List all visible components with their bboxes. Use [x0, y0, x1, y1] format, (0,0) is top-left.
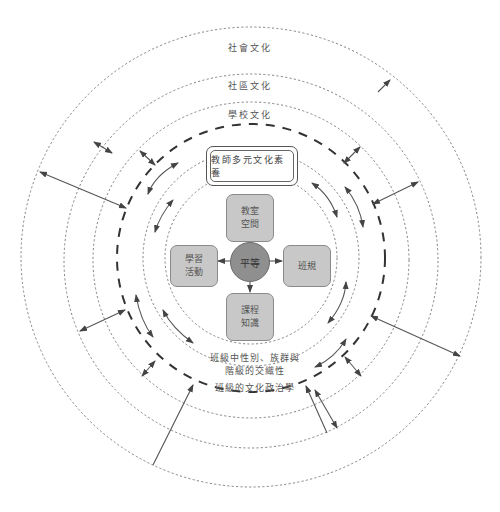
double-arrow-icon [153, 385, 193, 465]
double-arrow-icon [94, 142, 112, 153]
node-learning-activities-line1: 學習 [185, 253, 203, 266]
node-learning-activities: 學習 活動 [170, 245, 218, 287]
label-society-culture: 社會文化 [200, 41, 300, 54]
curved-arrow-icon [312, 183, 337, 217]
label-intersectionality-line1: 班級中性別、族群與 [180, 351, 330, 364]
core-equality: 平等 [230, 242, 270, 282]
label-school-culture: 學校文化 [200, 108, 300, 121]
node-curriculum-knowledge: 課程 知識 [226, 293, 274, 341]
curved-arrow-icon [148, 163, 178, 194]
core-equality-label: 平等 [240, 255, 260, 270]
double-arrow-icon [378, 80, 390, 92]
node-curriculum-knowledge-line1: 課程 [241, 304, 259, 317]
double-arrow-icon [345, 357, 361, 376]
node-learning-activities-line2: 活動 [185, 266, 203, 279]
node-classroom-space: 教室 空間 [226, 194, 274, 242]
teacher-literacy-box: 教師多元文化素養 [206, 146, 298, 186]
double-arrow-icon [344, 147, 360, 163]
teacher-literacy-label: 教師多元文化素養 [210, 150, 294, 182]
node-class-rules: 班規 [283, 245, 331, 287]
label-class-cultural-politics: 班級的文化政治學 [185, 381, 325, 394]
label-intersectionality-line2: 階級的交織性 [190, 364, 320, 377]
node-class-rules-line1: 班規 [298, 260, 316, 273]
double-arrow-icon [140, 151, 155, 165]
double-arrow-icon [40, 172, 126, 208]
double-arrow-icon [373, 182, 418, 204]
node-classroom-space-line1: 教室 [241, 205, 259, 218]
label-community-culture: 社區文化 [200, 79, 300, 92]
curved-arrow-icon [328, 282, 346, 323]
node-classroom-space-line2: 空間 [241, 218, 259, 231]
node-curriculum-knowledge-line2: 知識 [241, 317, 259, 330]
curved-arrow-icon [345, 187, 363, 227]
double-arrow-icon [315, 390, 337, 428]
double-arrow-icon [142, 361, 155, 376]
